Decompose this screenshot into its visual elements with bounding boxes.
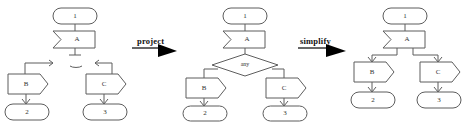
edge-b-to-end2 xyxy=(200,98,208,106)
edge-gateway-to-b xyxy=(204,69,218,78)
node-start-1: 1 xyxy=(383,8,427,24)
edge-c-to-end3 xyxy=(280,98,288,106)
node-task-a: A xyxy=(53,31,95,48)
node-end-2: 2 xyxy=(351,92,395,108)
node-gateway-any: any xyxy=(212,54,278,76)
node-end-2-label: 2 xyxy=(371,96,375,104)
node-end-2: 2 xyxy=(183,106,227,121)
edge-gateway-to-c xyxy=(272,69,284,78)
node-start-1-label: 1 xyxy=(73,12,77,20)
edge-a-to-b xyxy=(368,48,397,62)
panel-1-svg: 1 A xyxy=(0,0,148,126)
node-task-a-label: A xyxy=(74,35,79,43)
panel-3-svg: 1 A B C xyxy=(350,0,473,126)
node-start-1-label: 1 xyxy=(243,12,247,20)
diagram-panel-simplified: 1 A B C xyxy=(350,0,473,126)
node-end-2-label: 2 xyxy=(25,108,29,116)
node-end-3-label: 3 xyxy=(103,108,107,116)
edge-hook-to-b xyxy=(25,60,53,74)
edge-b-to-end2 xyxy=(368,82,376,92)
node-task-c-label: C xyxy=(282,84,287,92)
node-gateway-any-label: any xyxy=(241,61,250,67)
node-task-b-label: B xyxy=(202,84,207,92)
node-task-b: B xyxy=(8,74,48,94)
node-end-3: 3 xyxy=(83,104,127,120)
node-end-3-label: 3 xyxy=(283,109,287,117)
node-task-b-label: B xyxy=(24,80,29,88)
node-task-b-label: B xyxy=(370,68,375,76)
diagram-panel-projected: 1 A any B xyxy=(180,0,310,126)
node-start-1: 1 xyxy=(223,8,267,24)
edge-c-to-end3 xyxy=(100,94,108,104)
node-end-3: 3 xyxy=(263,106,307,121)
edge-c-to-end3 xyxy=(434,82,442,92)
node-task-a: A xyxy=(383,31,425,48)
node-end-3-label: 3 xyxy=(437,96,441,104)
edge-hook-to-c xyxy=(95,60,112,74)
figure-canvas: 1 A xyxy=(0,0,473,126)
panel-2-svg: 1 A any B xyxy=(180,0,310,126)
node-task-c: C xyxy=(420,62,460,82)
transition-arrow-project xyxy=(132,44,180,60)
node-end-3: 3 xyxy=(417,92,461,108)
node-task-a-label: A xyxy=(244,35,249,43)
node-start-1-label: 1 xyxy=(403,12,407,20)
diagram-panel-before: 1 A xyxy=(0,0,148,126)
node-end-2: 2 xyxy=(5,104,49,120)
node-task-c-label: C xyxy=(436,68,441,76)
node-end-2-label: 2 xyxy=(203,109,207,117)
transition-arrow-simplify xyxy=(298,44,350,60)
node-task-b: B xyxy=(186,78,226,98)
node-dangling-stub xyxy=(69,48,82,67)
edge-a-to-c xyxy=(413,48,442,62)
node-task-c-label: C xyxy=(102,80,107,88)
node-task-c: C xyxy=(86,74,126,94)
edge-b-to-end2 xyxy=(22,94,30,104)
node-task-c: C xyxy=(266,78,306,98)
node-task-b: B xyxy=(354,62,394,82)
node-task-a: A xyxy=(223,31,265,48)
node-task-a-label: A xyxy=(404,35,409,43)
node-start-1: 1 xyxy=(53,8,97,24)
